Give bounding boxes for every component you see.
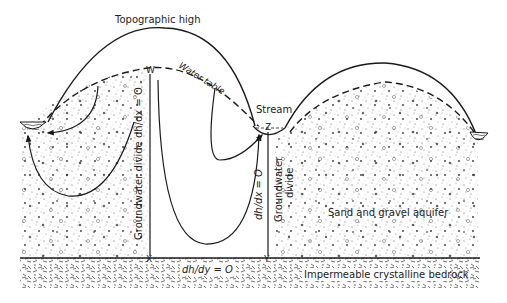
label-left-divide: Groundwater divide dh/dx = O: [133, 87, 144, 240]
label-point-y: Y: [263, 254, 270, 264]
cross-section-diagram: Topographic high Water table Stream W Z …: [0, 0, 507, 303]
label-right-divide-text: Groundwater: [273, 156, 284, 222]
label-water-table: Water table: [177, 60, 227, 96]
label-bedrock: Impermeable crystalline bedrock: [304, 269, 469, 280]
label-aquifer: Sand and gravel aquifer: [328, 207, 449, 218]
label-right-divide-equation: dh/dx = O: [253, 169, 264, 220]
flow-line-center-lower: [158, 80, 259, 244]
label-topographic-high: Topographic high: [114, 14, 201, 25]
label-point-x: X: [146, 254, 152, 264]
label-point-w: W: [146, 65, 155, 75]
aquifer-left: [22, 68, 148, 258]
label-bottom-boundary: dh/dy = O: [182, 264, 233, 275]
label-point-z: Z: [265, 122, 271, 132]
aquifer-right: [275, 82, 478, 258]
label-stream: Stream: [256, 104, 292, 115]
label-right-divide-text2: divide: [284, 168, 295, 198]
